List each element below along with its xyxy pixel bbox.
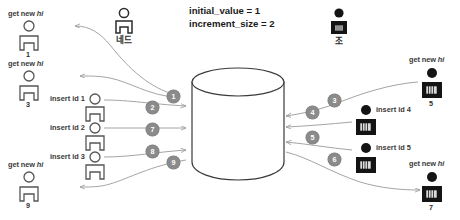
insert-figure-1 <box>86 94 104 121</box>
step-badge-5: 5 <box>306 131 319 144</box>
client-label-3-emph: hi <box>37 59 43 68</box>
client-label-3: get new hi <box>8 59 43 68</box>
client-label-5-text: get new <box>409 55 438 64</box>
edge-insert4-to-db <box>286 122 352 127</box>
insert-figure-4 <box>356 105 376 135</box>
client-label-9-emph: hi <box>37 160 43 169</box>
step-badge-3: 3 <box>328 94 341 107</box>
insert-figure-2 <box>86 123 104 150</box>
edge-insert5-to-db <box>286 142 352 150</box>
client-label-3-text: get new <box>8 59 37 68</box>
client-label-5-emph: hi <box>438 55 444 64</box>
step-badge-9: 9 <box>167 156 180 169</box>
step-badge-7: 7 <box>146 123 159 136</box>
insert-label-3: insert id 3 <box>50 152 85 161</box>
client-label-7-text: get new <box>409 159 438 168</box>
client-label-1-text: get new <box>8 9 37 18</box>
client-figure-3 <box>20 71 38 100</box>
client-figure-9 <box>20 172 38 201</box>
actor-avatar-ned <box>116 8 132 33</box>
step-badge-6: 6 <box>328 153 341 166</box>
insert-label-4: insert id 4 <box>376 105 411 114</box>
client-label-9-text: get new <box>8 160 37 169</box>
client-id-1: 1 <box>26 50 30 59</box>
client-label-5: get new hi <box>409 55 444 64</box>
database-cylinder <box>192 68 284 180</box>
client-label-7: get new hi <box>409 159 444 168</box>
insert-label-1: insert id 1 <box>50 94 85 103</box>
client-figure-5 <box>422 68 442 98</box>
step-badge-1: 1 <box>167 90 180 103</box>
client-label-9: get new hi <box>8 160 43 169</box>
client-figure-7 <box>422 172 442 202</box>
client-label-1: get new hi <box>8 9 43 18</box>
step-badge-8: 8 <box>146 145 159 158</box>
actor-avatar-jo <box>331 8 347 34</box>
param-increment-size: increment_size = 2 <box>189 18 275 31</box>
client-figure-1 <box>20 21 38 50</box>
diagram-canvas: initial_value = 1 increment_size = 2 네드 … <box>0 0 460 220</box>
client-label-1-emph: hi <box>37 9 43 18</box>
actor-name-jo: 조 <box>323 34 355 46</box>
step-badge-2: 2 <box>146 101 159 114</box>
insert-label-5: insert id 5 <box>376 143 411 152</box>
insert-figure-5 <box>356 143 376 173</box>
client-label-7-emph: hi <box>438 159 444 168</box>
param-initial-value: initial_value = 1 <box>189 5 275 18</box>
edge-db-to-client7 <box>286 152 420 190</box>
step-badge-4: 4 <box>306 106 319 119</box>
actor-name-ned: 네드 <box>108 33 140 45</box>
client-id-9: 9 <box>26 201 30 210</box>
insert-figure-3 <box>86 152 104 179</box>
client-id-7: 7 <box>429 203 433 212</box>
client-id-5: 5 <box>429 99 433 108</box>
insert-label-2: insert id 2 <box>50 123 85 132</box>
params-block: initial_value = 1 increment_size = 2 <box>189 5 275 30</box>
client-id-3: 3 <box>26 100 30 109</box>
